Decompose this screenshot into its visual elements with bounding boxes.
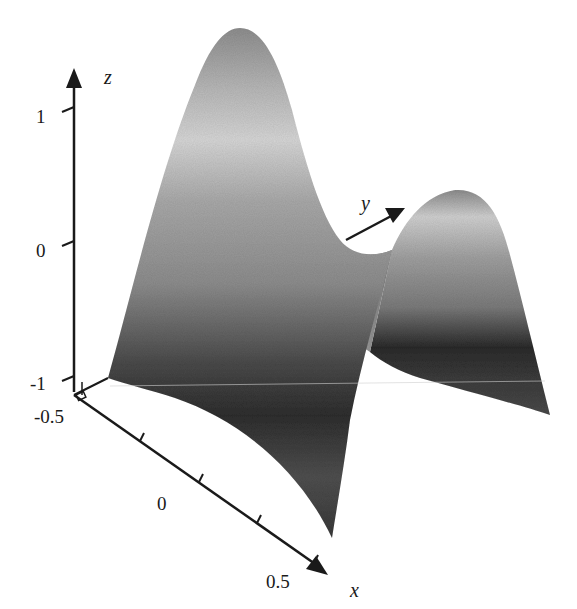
z-tick-m1 [62,376,74,381]
surface-plot: z 1 0 -1 -0.5 0 0.5 x y [0,0,577,609]
y-axis-label: y [359,192,370,215]
y-axis-arrow-icon [385,208,405,223]
z-axis-label: z [103,66,112,88]
y-axis [346,208,405,240]
z-tick-label-m1: -1 [30,373,46,394]
x-tick-label-m05: -0.5 [34,406,64,427]
z-tick-label-0: 0 [36,240,46,261]
x-tick-1 [140,433,144,441]
z-axis-arrow-icon [66,68,82,88]
surface-front-peak [108,28,392,538]
z-tick-1 [62,107,74,112]
x-axis-label: x [349,579,359,601]
x-tick-3 [257,515,261,523]
z-tick-0 [62,241,74,246]
x-tick-2 [199,474,203,482]
z-tick-label-1: 1 [36,106,46,127]
x-tick-label-05: 0.5 [266,571,290,592]
x-tick-label-0: 0 [157,493,167,514]
z-axis [62,68,82,392]
